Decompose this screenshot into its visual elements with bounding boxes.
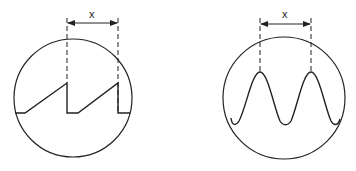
sine-panel: x (223, 8, 345, 159)
sawtooth-trace (15, 83, 130, 113)
sine-trace (231, 72, 340, 125)
period-label-right: x (282, 8, 288, 20)
oscilloscope-screen-left (14, 39, 132, 157)
oscilloscope-diagram: x x (0, 0, 356, 171)
period-label-left: x (89, 8, 95, 20)
sawtooth-panel: x (14, 8, 132, 157)
oscilloscope-screen-right (223, 37, 345, 159)
